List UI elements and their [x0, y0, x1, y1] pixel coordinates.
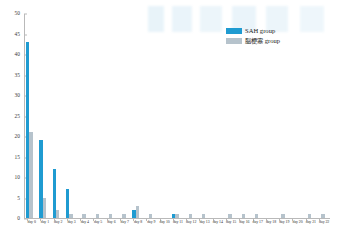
x-axis-tick-label: day 22 — [318, 221, 331, 225]
bar-infarction — [255, 214, 258, 218]
bar-infarction — [43, 198, 46, 219]
x-axis-tick-label: day 4 — [78, 221, 91, 225]
x-axis-tick-label: day 9 — [145, 221, 158, 225]
x-axis-tick-label: day 14 — [211, 221, 224, 225]
x-axis-tick-label: day 6 — [105, 221, 118, 225]
bar-infarction — [175, 214, 178, 218]
x-axis-tick-label: day 8 — [131, 221, 144, 225]
bar-group — [131, 14, 144, 218]
bar-group — [144, 14, 157, 218]
x-axis-tick-label: day 0 — [25, 221, 38, 225]
y-axis-tick-label: 35 — [2, 73, 20, 78]
y-axis-tick-label: 45 — [2, 32, 20, 37]
legend-swatch-infarction — [226, 38, 242, 44]
bar-group — [237, 14, 250, 218]
bars-layer — [25, 14, 330, 218]
x-axis-tick-label: day 1 — [38, 221, 51, 225]
bar-group — [197, 14, 210, 218]
x-axis-tick-label: day 3 — [65, 221, 78, 225]
bar-group — [277, 14, 290, 218]
bar-group — [91, 14, 104, 218]
bar-infarction — [56, 210, 59, 218]
x-axis-tick-label: day 19 — [278, 221, 291, 225]
legend-label-sah: SAH group — [245, 28, 275, 35]
x-axis-line — [24, 218, 330, 219]
bar-infarction — [308, 214, 311, 218]
bar-group — [52, 14, 65, 218]
x-axis-tick-label: day 17 — [251, 221, 264, 225]
bar-group — [211, 14, 224, 218]
bar-group — [264, 14, 277, 218]
x-axis-labels: day 0day 1day 2day 3day 4day 5day 6day 7… — [25, 221, 331, 225]
bar-infarction — [109, 214, 112, 218]
bar-infarction — [69, 214, 72, 218]
y-axis-tick-label: 25 — [2, 114, 20, 119]
x-axis-tick-label: day 18 — [264, 221, 277, 225]
bar-infarction — [228, 214, 231, 218]
bar-group — [105, 14, 118, 218]
y-axis-tick-label: 5 — [2, 196, 20, 201]
x-axis-tick-label: day 11 — [171, 221, 184, 225]
bar-group — [38, 14, 51, 218]
x-axis-tick-label: day 2 — [52, 221, 65, 225]
plot-area: 05101520253035404550 — [24, 14, 330, 219]
bar-infarction — [149, 214, 152, 218]
y-axis-tick-label: 20 — [2, 134, 20, 139]
y-axis-tick-label: 50 — [2, 11, 20, 16]
legend-item-sah: SAH group — [226, 28, 280, 35]
bar-infarction — [29, 132, 32, 218]
bar-group — [171, 14, 184, 218]
bar-group — [158, 14, 171, 218]
legend-label-infarction: 脳梗塞 group — [245, 38, 280, 45]
bar-infarction — [136, 206, 139, 218]
bar-infarction — [202, 214, 205, 218]
bar-infarction — [122, 214, 125, 218]
bar-infarction — [189, 214, 192, 218]
legend-label-infarction-cjk: 脳梗塞 — [245, 37, 263, 44]
bar-group — [184, 14, 197, 218]
y-axis-tick-label: 10 — [2, 175, 20, 180]
chart-legend: SAH group 脳梗塞 group — [226, 28, 280, 44]
bar-chart: 05101520253035404550 day 0day 1day 2day … — [0, 0, 343, 240]
bar-infarction — [242, 214, 245, 218]
y-axis-tick-label: 40 — [2, 52, 20, 57]
bar-group — [251, 14, 264, 218]
bar-group — [65, 14, 78, 218]
x-axis-tick-label: day 10 — [158, 221, 171, 225]
bar-group — [317, 14, 330, 218]
bar-infarction — [281, 214, 284, 218]
x-axis-tick-label: day 15 — [224, 221, 237, 225]
bar-infarction — [96, 214, 99, 218]
x-axis-tick-label: day 16 — [238, 221, 251, 225]
y-axis-tick-label: 15 — [2, 155, 20, 160]
bar-group — [304, 14, 317, 218]
x-axis-tick-label: day 5 — [91, 221, 104, 225]
bar-group — [290, 14, 303, 218]
x-axis-tick-label: day 20 — [291, 221, 304, 225]
bar-infarction — [321, 214, 324, 218]
x-axis-tick-label: day 7 — [118, 221, 131, 225]
bar-group — [224, 14, 237, 218]
bar-group — [78, 14, 91, 218]
legend-swatch-sah — [226, 28, 242, 34]
x-axis-tick-label: day 12 — [185, 221, 198, 225]
bar-group — [25, 14, 38, 218]
bar-group — [118, 14, 131, 218]
y-axis-tick-label: 30 — [2, 93, 20, 98]
x-axis-tick-label: day 21 — [304, 221, 317, 225]
bar-infarction — [82, 214, 85, 218]
legend-item-infarction: 脳梗塞 group — [226, 38, 280, 45]
y-axis-tick-label: 0 — [2, 216, 20, 221]
x-axis-tick-label: day 13 — [198, 221, 211, 225]
